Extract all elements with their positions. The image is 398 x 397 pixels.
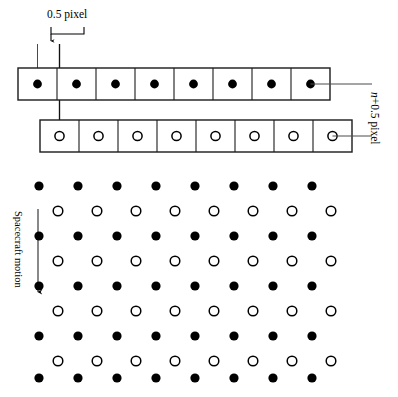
detector-sample-filled (228, 80, 237, 89)
detector-sample-open (250, 131, 259, 140)
diagram-canvas (0, 0, 398, 397)
detector-sample-open (133, 131, 142, 140)
detector-sample-open (55, 131, 64, 140)
detector-sample-filled (72, 80, 81, 89)
detector-sample-filled (33, 80, 42, 89)
half-pixel-label: 0.5 pixel (47, 9, 87, 21)
detector-sample-filled (150, 80, 159, 89)
detector-sample-open (172, 131, 181, 140)
n-suffix: +0.5 pixel (369, 98, 381, 145)
sample-grid-row-open (53, 356, 336, 366)
detector-sample-open (211, 131, 220, 140)
sample-grid-row-filled (34, 373, 316, 382)
sample-grid-row-open (53, 306, 336, 316)
sample-grid-row-filled (34, 331, 316, 340)
sample-grid-row-filled (34, 281, 316, 290)
detector-sample-filled (111, 80, 120, 89)
detector-sample-open (289, 131, 298, 140)
n-plus-half-pixel-label: n+0.5 pixel (369, 92, 381, 144)
detector-sample-open (94, 131, 103, 140)
detector-sample-filled (189, 80, 198, 89)
pixel-sampling-diagram: 0.5 pixel n+0.5 pixel Spacecraft motion (0, 0, 398, 397)
sample-grid-row-open (53, 206, 336, 216)
detector-row-open (40, 120, 352, 152)
spacecraft-motion-label: Spacecraft motion (13, 211, 24, 288)
sample-grid-row-filled (34, 231, 316, 240)
sample-grid-row-filled (34, 181, 316, 190)
sample-grid (34, 181, 335, 382)
detector-sample-filled (267, 80, 276, 89)
half-pixel-callout (51, 27, 84, 41)
sample-grid-row-open (53, 256, 336, 266)
detector-row-filled (18, 68, 330, 100)
